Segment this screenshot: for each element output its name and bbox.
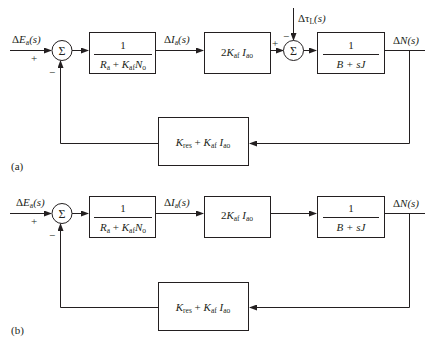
current-arg: (s) (178, 196, 190, 208)
block1-denominator: Ra + KafNo (100, 55, 146, 72)
block1-transfer-function-b: 1 Ra + KafNo (93, 202, 153, 235)
den-plus: + (110, 221, 122, 233)
block1-numerator: 1 (120, 39, 126, 54)
delta-tau: Δτ (298, 12, 310, 24)
current-label-b: ΔIa(s) (164, 197, 190, 210)
disturbance-arg: (s) (314, 12, 326, 24)
fb-k2-sub: af (211, 141, 217, 150)
fb-i-sub: ao (223, 141, 230, 150)
disturbance-label-a: ΔτL(s) (298, 13, 326, 26)
input-label-b: ΔEa(s) (16, 197, 45, 210)
fb-plus: + (192, 136, 204, 148)
block3-transfer-function-b: 1 B + sJ (320, 202, 382, 233)
input-arg: (s) (33, 196, 45, 208)
input-plus-sign-b: + (31, 216, 37, 227)
caption-a: (a) (11, 160, 23, 172)
output-arg: (s) (407, 34, 419, 46)
block1-numerator: 1 (120, 202, 126, 217)
sum-symbol-1-b: Σ (59, 208, 66, 220)
block2-gain-b: 2Kaf Iao (221, 209, 253, 223)
input-var: E (23, 196, 30, 208)
sum-symbol-1-a: Σ (59, 45, 66, 57)
fb-k-sub: res (183, 141, 192, 150)
feedback-minus-sign-b: − (49, 230, 55, 241)
feedback-gain-b: Kres + Kaf Iao (176, 301, 231, 315)
gain-k-sub: af (234, 214, 240, 223)
input-arg: (s) (29, 33, 41, 45)
output-label-a: ΔN(s) (393, 35, 419, 46)
disturbance-minus-sign-a: − (283, 31, 289, 42)
den-plus: + (110, 58, 122, 70)
block3-denominator: B + sJ (337, 55, 366, 70)
block3-numerator: 1 (348, 39, 354, 54)
input-var: E (19, 33, 26, 45)
caption-b: (b) (11, 324, 24, 336)
den-r: R (100, 58, 107, 70)
den-n-sub: o (142, 226, 146, 235)
gain-i-sub: ao (246, 214, 253, 223)
den-k: K (122, 221, 129, 233)
fb-plus: + (192, 301, 204, 313)
torque-plus-sign-a: + (272, 38, 278, 49)
den-r: R (100, 221, 107, 233)
gain-k-sub: af (234, 51, 240, 60)
gain-k: K (226, 46, 233, 58)
fb-k2-sub: af (211, 306, 217, 315)
current-arg: (s) (178, 33, 190, 45)
den-n-sub: o (142, 63, 146, 72)
block3-transfer-function-a: 1 B + sJ (320, 39, 382, 70)
block3-denominator: B + sJ (337, 218, 366, 233)
feedback-minus-sign-a: − (49, 67, 55, 78)
gain-i-sub: ao (246, 51, 253, 60)
output-label-b: ΔN(s) (393, 198, 419, 209)
den-k: K (122, 58, 129, 70)
sum-symbol-2-a: Σ (290, 45, 297, 57)
block3-numerator: 1 (348, 202, 354, 217)
gain-k: K (226, 209, 233, 221)
input-label-a: ΔEa(s) (12, 34, 41, 47)
block1-denominator: Ra + KafNo (100, 218, 146, 235)
output-arg: (s) (407, 197, 419, 209)
input-plus-sign-a: + (31, 53, 37, 64)
fb-k-sub: res (183, 306, 192, 315)
fb-i-sub: ao (223, 306, 230, 315)
block2-gain-a: 2Kaf Iao (221, 46, 253, 60)
block1-transfer-function-a: 1 Ra + KafNo (93, 39, 153, 72)
current-label-a: ΔIa(s) (164, 34, 190, 47)
feedback-gain-a: Kres + Kaf Iao (176, 136, 231, 150)
